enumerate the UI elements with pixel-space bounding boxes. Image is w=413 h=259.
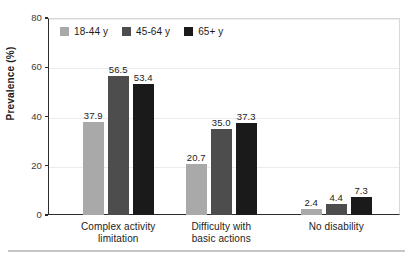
y-axis-tick-mark [45,67,48,68]
y-axis-tick-label: 0 [18,209,42,220]
legend-item[interactable]: 18-44 y [60,26,108,37]
bar-value-label: 37.3 [230,111,263,122]
y-axis-tick-label: 40 [18,111,42,122]
y-axis-tick-mark [45,116,48,117]
legend-swatch-icon [60,27,69,36]
chart-figure: 020406080 Prevalence (%) 37.956.553.420.… [0,0,413,259]
x-axis-category-label: Difficulty with basic actions [161,221,281,245]
bar [186,164,207,215]
y-axis-tick-mark [45,17,48,18]
bar [236,123,257,215]
bar [108,76,129,215]
bar [133,84,154,215]
y-axis-tick-mark [45,165,48,166]
bar-value-label: 7.3 [345,185,378,196]
y-axis-tick-mark [45,214,48,215]
bar [211,129,232,215]
bar [301,209,322,215]
bar-value-label: 53.4 [127,72,160,83]
legend-swatch-icon [122,27,131,36]
y-axis-title: Prevalence (%) [5,47,16,121]
bottom-divider [8,250,405,252]
bar-value-label: 20.7 [180,152,213,163]
y-axis-tick-label: 60 [18,61,42,72]
y-axis-tick-label: 80 [18,12,42,23]
x-axis-category-label: No disability [276,221,396,233]
bar [326,204,347,215]
gridline [49,19,399,20]
legend-label: 65+ y [198,26,223,37]
legend-label: 45-64 y [136,26,170,37]
bar [83,122,104,215]
y-axis-tick-label: 20 [18,160,42,171]
legend-swatch-icon [184,27,193,36]
legend-item[interactable]: 65+ y [184,26,223,37]
legend-item[interactable]: 45-64 y [122,26,170,37]
legend-label: 18-44 y [74,26,108,37]
bar [351,197,372,215]
x-axis-category-label: Complex activity limitation [58,221,178,245]
chart-legend: 18-44 y45-64 y65+ y [60,26,223,37]
bar-value-label: 37.9 [77,110,110,121]
